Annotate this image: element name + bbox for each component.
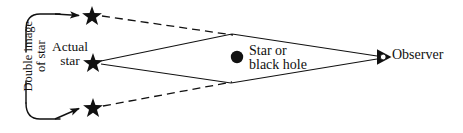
label-lens-line2: black hole	[249, 58, 307, 72]
brace-arrow-lower	[55, 109, 79, 120]
label-actual-star-line1: Actual	[52, 39, 88, 54]
apparent-star-top-icon	[82, 6, 102, 25]
label-lens-line1: Star or	[249, 43, 287, 58]
label-double-image-of-star: Double image of star	[22, 0, 49, 115]
label-star-or-black-hole: Star or black hole	[249, 44, 307, 73]
ray-lower-incoming	[101, 64, 231, 83]
apparent-sightlines	[102, 16, 233, 106]
lensing-diagram-figure: Double image of star Actual star Star or…	[0, 0, 463, 133]
observer-eye-icon	[377, 49, 392, 65]
sightline-lower	[103, 82, 232, 106]
black-hole-dot-icon	[231, 51, 243, 63]
apparent-star-bottom-icon	[83, 98, 103, 117]
label-observer: Observer	[392, 48, 443, 62]
ray-upper-incoming	[101, 34, 232, 61]
label-double-image-line1: Double image	[21, 21, 35, 91]
label-actual-star: Actual star	[47, 40, 93, 68]
brace-arrow-upper	[55, 14, 79, 16]
sightline-upper	[102, 16, 233, 35]
label-actual-star-line2: star	[47, 54, 93, 68]
